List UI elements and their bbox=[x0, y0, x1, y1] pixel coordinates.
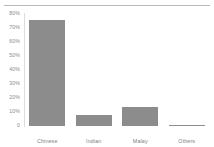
y-axis-tick-label: 60% bbox=[9, 39, 20, 44]
bar-malay bbox=[122, 107, 158, 126]
y-axis-tick-label: 20% bbox=[9, 95, 20, 100]
bar-chinese bbox=[29, 20, 65, 126]
y-axis-tick-label: 50% bbox=[9, 53, 20, 58]
x-axis-label-slot: Chinese bbox=[24, 129, 71, 147]
x-axis-label-slot: Malay bbox=[117, 129, 164, 147]
y-axis-tick-label: 0 bbox=[17, 123, 20, 128]
x-axis-tick-label: Malay bbox=[133, 138, 148, 144]
bar-indian bbox=[76, 115, 112, 126]
y-axis-tick-label: 70% bbox=[9, 25, 20, 30]
x-axis-label-slot: Indian bbox=[71, 129, 118, 147]
top-divider-rule bbox=[4, 5, 210, 6]
x-axis-tick-labels: Chinese Indian Malay Others bbox=[24, 129, 210, 147]
y-axis-tick-label: 80% bbox=[9, 11, 20, 16]
y-axis-tick-label: 30% bbox=[9, 81, 20, 86]
x-axis-label-slot: Others bbox=[164, 129, 211, 147]
bar-others bbox=[169, 125, 205, 126]
x-axis-tick-label: Indian bbox=[86, 138, 101, 144]
plot-area bbox=[24, 14, 210, 126]
bar-slot bbox=[164, 14, 211, 126]
y-axis-tick-label: 10% bbox=[9, 109, 20, 114]
bar-chart-figure: 80% 70% 60% 50% 40% 30% 20% 10% 0 Chines… bbox=[0, 0, 214, 147]
y-axis-tick-label: 40% bbox=[9, 67, 20, 72]
bar-slot bbox=[71, 14, 118, 126]
x-axis-tick-label: Others bbox=[178, 138, 195, 144]
bar-slot bbox=[117, 14, 164, 126]
y-axis-tick-labels: 80% 70% 60% 50% 40% 30% 20% 10% 0 bbox=[0, 14, 22, 126]
bar-slot bbox=[24, 14, 71, 126]
x-axis-tick-label: Chinese bbox=[37, 138, 57, 144]
bars-layer bbox=[24, 14, 210, 126]
